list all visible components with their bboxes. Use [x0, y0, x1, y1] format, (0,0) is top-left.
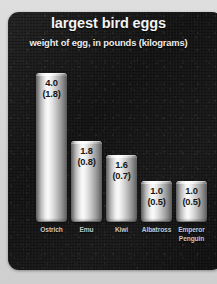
- bar-kiwi[interactable]: 1.6 (0.7): [106, 155, 137, 222]
- bar-value-emu: 1.8 (0.8): [67, 146, 106, 167]
- bar-value-emperor-penguin: 1.0 (0.5): [172, 186, 211, 207]
- bar-slot-kiwi: 1.6 (0.7) Kiwi: [106, 155, 137, 222]
- bar-slot-emu: 1.8 (0.8) Emu: [71, 141, 102, 222]
- bar-slot-albatross: 1.0 (0.5) Albatross: [141, 181, 172, 222]
- plot-area: 4.0 (1.8) Ostrich 1.8 (0.8) Emu 1.6 (0.7…: [8, 12, 217, 270]
- bar-label-emperor-penguin: Emperor Penguin: [165, 226, 217, 243]
- bar-emu[interactable]: 1.8 (0.8): [71, 141, 102, 222]
- bar-emperor-penguin[interactable]: 1.0 (0.5): [176, 181, 207, 222]
- bar-slot-ostrich: 4.0 (1.8) Ostrich: [36, 73, 67, 222]
- bar-value-albatross: 1.0 (0.5): [137, 186, 176, 207]
- bar-albatross[interactable]: 1.0 (0.5): [141, 181, 172, 222]
- bar-value-kiwi: 1.6 (0.7): [102, 160, 141, 181]
- chart-image: largest bird eggs weight of egg, in poun…: [0, 0, 217, 284]
- bar-value-ostrich: 4.0 (1.8): [32, 78, 71, 99]
- bar-ostrich[interactable]: 4.0 (1.8): [36, 73, 67, 222]
- bar-slot-emperor-penguin: 1.0 (0.5) Emperor Penguin: [176, 181, 207, 222]
